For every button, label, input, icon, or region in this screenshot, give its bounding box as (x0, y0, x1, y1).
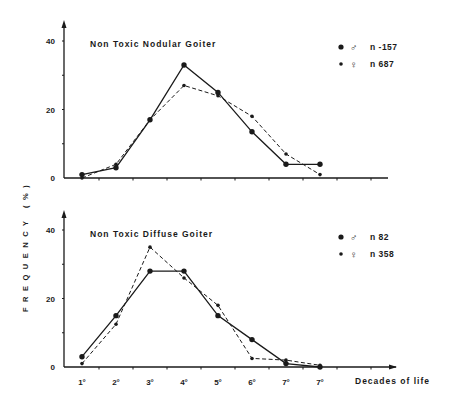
y-tick-label: 20 (46, 106, 55, 115)
data-point-female (148, 118, 152, 122)
y-axis-arrow-icon (62, 210, 67, 218)
chart-nodular-goiter: 02040Non Toxic Nodular Goiter♂n -157♀n 6… (46, 20, 397, 183)
x-tick-label: 3° (146, 378, 154, 387)
data-point-female (250, 115, 254, 119)
legend-n-label: n 687 (370, 59, 394, 69)
data-point-male (113, 313, 118, 318)
y-tick-label: 0 (51, 363, 56, 372)
figure-canvas: FREQUENCY (%) 02040Non Toxic Nodular Goi… (0, 0, 456, 404)
female-symbol-icon: ♀ (350, 59, 358, 70)
data-point-female (318, 363, 322, 367)
data-point-female (114, 163, 118, 167)
data-point-female (114, 322, 118, 326)
male-symbol-icon: ♂ (350, 232, 358, 243)
data-point-male (181, 62, 186, 67)
y-axis-label: FREQUENCY (%) (21, 180, 30, 312)
data-point-female (216, 94, 220, 98)
y-axis-arrow-icon (62, 20, 67, 28)
x-tick-label: 4° (180, 378, 188, 387)
legend-n-label: n 358 (370, 249, 394, 259)
data-point-female (284, 358, 288, 362)
data-point-female (284, 152, 288, 156)
chart-title: Non Toxic Nodular Goiter (90, 39, 216, 49)
legend-n-label: n -157 (370, 42, 398, 52)
x-tick-label: 2° (112, 378, 120, 387)
y-tick-label: 0 (51, 174, 56, 183)
x-tick-label: 7° (282, 378, 290, 387)
legend-marker (338, 234, 343, 239)
data-point-female (148, 245, 152, 249)
data-point-female (216, 304, 220, 308)
series-line-male (82, 65, 320, 175)
series-line-female (82, 247, 320, 365)
legend-marker (339, 252, 343, 256)
data-point-female (80, 362, 84, 366)
data-point-male (215, 313, 220, 318)
y-tick-label: 40 (46, 37, 55, 46)
chart-diffuse-goiter: 020401°2°3°4°5°6°7°7°Non Toxic Diffuse G… (46, 210, 397, 387)
legend-marker (339, 62, 343, 66)
chart-title: Non Toxic Diffuse Goiter (90, 229, 213, 239)
x-axis-label: Decades of life (355, 376, 430, 386)
x-tick-label: 5° (214, 378, 222, 387)
y-tick-label: 20 (46, 295, 55, 304)
legend-n-label: n 82 (370, 232, 389, 242)
male-symbol-icon: ♂ (350, 42, 358, 53)
x-axis-arrow-icon (389, 365, 397, 370)
data-point-male (317, 162, 322, 167)
data-point-male (147, 268, 152, 273)
data-point-female (318, 173, 322, 177)
data-point-female (250, 357, 254, 361)
x-tick-label: 1° (78, 378, 86, 387)
data-point-male (79, 354, 84, 359)
y-tick-label: 40 (46, 226, 55, 235)
x-tick-label: 7° (316, 378, 324, 387)
data-point-male (283, 162, 288, 167)
series-line-male (82, 271, 320, 367)
legend-marker (338, 44, 343, 49)
data-point-male (249, 337, 254, 342)
data-point-male (181, 268, 186, 273)
x-tick-label: 6° (248, 378, 256, 387)
data-point-female (182, 276, 186, 280)
data-point-male (249, 129, 254, 134)
data-point-female (182, 84, 186, 88)
female-symbol-icon: ♀ (350, 249, 358, 260)
data-point-female (80, 176, 84, 180)
